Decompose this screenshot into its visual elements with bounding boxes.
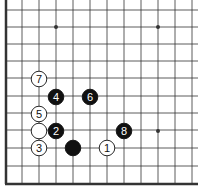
white-stone bbox=[31, 123, 47, 139]
star-point bbox=[156, 25, 160, 29]
stone-circle bbox=[65, 140, 81, 156]
star-point bbox=[54, 25, 58, 29]
white-stone-5: 5 bbox=[31, 106, 47, 122]
white-stone-1: 1 bbox=[99, 140, 115, 156]
black-stone-4: 4 bbox=[48, 89, 64, 105]
white-stone-7: 7 bbox=[31, 71, 47, 87]
star-point bbox=[156, 129, 160, 133]
black-stone-2: 2 bbox=[48, 123, 64, 139]
go-board: 12345678 bbox=[0, 0, 198, 192]
move-number: 3 bbox=[36, 142, 42, 154]
white-stone-3: 3 bbox=[31, 140, 47, 156]
move-number: 8 bbox=[121, 125, 127, 137]
board-grid bbox=[5, 0, 198, 184]
black-stone bbox=[65, 140, 81, 156]
move-number: 5 bbox=[36, 108, 42, 120]
black-stone-8: 8 bbox=[116, 123, 132, 139]
move-number: 2 bbox=[53, 125, 59, 137]
stones: 12345678 bbox=[31, 71, 132, 156]
move-number: 4 bbox=[53, 91, 59, 103]
move-number: 1 bbox=[104, 142, 110, 154]
black-stone-6: 6 bbox=[82, 89, 98, 105]
move-number: 7 bbox=[36, 73, 42, 85]
move-number: 6 bbox=[87, 91, 93, 103]
stone-circle bbox=[31, 123, 47, 139]
